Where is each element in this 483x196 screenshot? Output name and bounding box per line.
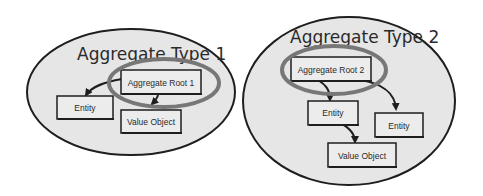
aggregate-root-box-2: Aggregate Root 2 — [291, 57, 372, 82]
entity-box-2-left: Entity — [308, 101, 359, 126]
aggregate-title-2: Aggregate Type 2 — [290, 27, 439, 47]
value-object-box-1: Value Object — [121, 110, 182, 134]
entity-box-1: Entity — [57, 96, 114, 120]
aggregate-root-label: Aggregate Root 1 — [128, 78, 195, 88]
entity-label: Entity — [74, 103, 96, 113]
aggregate-type-2: Aggregate Type 2 Aggregate Root 2 Entity… — [243, 17, 455, 185]
entity-label: Entity — [388, 121, 410, 131]
entity-box-2-right: Entity — [375, 113, 424, 138]
aggregate-root-label: Aggregate Root 2 — [298, 65, 365, 75]
aggregate-type-1: Aggregate Type 1 Entity Value Object Agg… — [27, 29, 235, 155]
aggregate-diagram: Aggregate Type 1 Entity Value Object Agg… — [0, 0, 483, 196]
value-object-label: Value Object — [338, 151, 387, 161]
aggregate-root-box-1: Aggregate Root 1 — [121, 70, 202, 95]
value-object-box-2: Value Object — [328, 143, 397, 168]
value-object-label: Value Object — [127, 117, 176, 127]
entity-label: Entity — [322, 108, 344, 118]
